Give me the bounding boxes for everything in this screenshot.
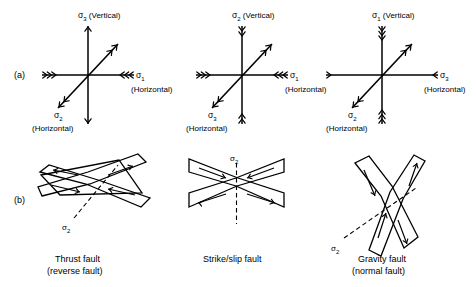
svg-text:(Horizontal): (Horizontal) [32,124,74,133]
fault-diagram-thrust: σ2 Thrust fault (reverse fault) [38,154,150,276]
fault-caption-line2: (reverse fault) [47,266,103,276]
svg-text:σ1 (Vertical): σ1 (Vertical) [372,10,415,22]
horizontal-axis-label: σ1 (Horizontal) [131,70,173,94]
slip-arrow-lower-right [398,220,409,244]
row-label-a: (a) [14,70,25,80]
slip-arrow-upper-right [108,164,133,175]
fault-caption-line1: Thrust fault [55,254,101,264]
sigma2-label: σ2 [62,223,71,234]
svg-text:(Horizontal): (Horizontal) [424,85,466,94]
fault-caption-line2: (normal fault) [352,266,405,276]
fault-diagram-gravity: σ2 Gravity fault (normal fault) [331,155,425,276]
slip-arrow-upper-left [199,168,226,180]
vertical-axis-label: σ2 (Vertical) [232,10,275,22]
fault-diagram-strikeslip: σ2 Strike/slip fault [189,154,284,264]
svg-text:(Horizontal): (Horizontal) [326,124,368,133]
svg-text:σ2 (Vertical): σ2 (Vertical) [232,10,275,22]
svg-text:σ1: σ1 [290,70,299,82]
stress-diagram-thrust: σ3 (Vertical) σ1 (Horizontal) σ2 (Horizo… [32,10,173,133]
diagonal-axis-label: σ2 (Horizontal) [326,110,368,133]
diagonal-axis-label: σ2 (Horizontal) [32,110,74,133]
svg-text:(Horizontal): (Horizontal) [285,85,327,94]
fault-block-steep-left [369,155,425,256]
slip-arrow-lower-right [247,194,275,205]
slip-arrow-lower-left [378,213,388,238]
diagonal-axis-label: σ3 (Horizontal) [186,110,228,133]
fault-caption-line1: Strike/slip fault [203,254,262,264]
figure-stress-and-fault-types: (a) σ3 (Vertic [0,0,476,287]
svg-text:σ1: σ1 [136,70,145,82]
stress-diagram-strikeslip: σ2 (Vertical) σ1 (Horizontal) σ3 (Horizo… [186,10,327,133]
svg-text:σ3: σ3 [440,70,449,82]
figure-canvas: (a) σ3 (Vertic [0,0,476,287]
horizontal-axis-label: σ3 (Horizontal) [424,70,466,94]
fault-caption-line1: Gravity fault [358,254,407,264]
svg-text:(Horizontal): (Horizontal) [131,85,173,94]
svg-text:σ3: σ3 [208,110,217,122]
svg-text:(Horizontal): (Horizontal) [186,124,228,133]
svg-text:σ2: σ2 [348,110,357,122]
vertical-axis-label: σ1 (Vertical) [372,10,415,22]
svg-text:σ2: σ2 [54,110,63,122]
row-label-b: (b) [14,195,25,205]
slip-arrow-lower-left [198,194,226,206]
stress-diagram-gravity: σ1 (Vertical) σ3 (Horizontal) σ2 (Horizo… [326,10,466,133]
slip-arrow-upper-right [247,168,274,180]
sigma2-label: σ2 [331,244,340,255]
horizontal-axis-label: σ1 (Horizontal) [285,70,327,94]
vertical-axis-label: σ3 (Vertical) [78,10,121,22]
sigma2-label: σ2 [230,154,239,165]
svg-text:σ3 (Vertical): σ3 (Vertical) [78,10,121,22]
